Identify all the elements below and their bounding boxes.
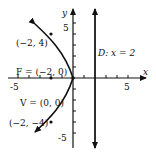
y-axis-label: y (61, 8, 68, 18)
point-bottom-label: (−2, −4) (9, 118, 48, 128)
vertex-label: V = (0, 0) (19, 98, 64, 108)
y-tick-5: 5 (63, 23, 69, 33)
directrix-label: D: x = 2 (97, 48, 135, 58)
x-tick-neg5: -5 (10, 82, 19, 92)
y-tick-neg5: -5 (58, 133, 67, 143)
focus-label: F = (−2, 0) (16, 67, 67, 77)
x-tick-5: 5 (124, 82, 130, 92)
point-top-label: (−2, 4) (16, 38, 48, 48)
parabola-diagram: y x 5 -5 -5 5 (−2, 4) F = (−2, 0) V = (0… (0, 0, 156, 153)
vertex-dot (71, 76, 75, 80)
point-bottom-dot (49, 120, 52, 123)
point-top-dot (49, 32, 52, 35)
x-axis-label: x (143, 67, 148, 77)
